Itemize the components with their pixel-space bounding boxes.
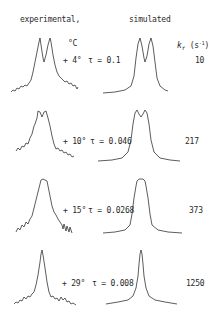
experimental-spectrum-29C bbox=[14, 250, 76, 305]
temperature-label: + 10° bbox=[63, 137, 86, 146]
spectra-plot bbox=[0, 0, 213, 324]
rate-constant-value: 10 bbox=[195, 56, 204, 65]
tau-label: τ = 0.046 bbox=[90, 137, 132, 146]
temperature-label: + 15° bbox=[63, 206, 86, 215]
experimental-spectrum-4C bbox=[11, 38, 78, 92]
temperature-label: + 4° bbox=[63, 56, 81, 65]
simulated-spectrum-4C bbox=[103, 38, 168, 93]
experimental-spectrum-10C bbox=[16, 111, 74, 157]
rate-constant-value: 1250 bbox=[186, 279, 204, 288]
tau-label: τ = 0.008 bbox=[92, 279, 134, 288]
temperature-label: + 29° bbox=[62, 279, 85, 288]
rate-constant-value: 217 bbox=[185, 137, 199, 146]
simulated-spectrum-29C bbox=[106, 250, 177, 304]
simulated-spectrum-10C bbox=[98, 110, 180, 161]
tau-label: τ = 0.1 bbox=[88, 56, 120, 65]
tau-label: τ = 0.0268 bbox=[88, 206, 134, 215]
rate-constant-value: 373 bbox=[189, 206, 203, 215]
